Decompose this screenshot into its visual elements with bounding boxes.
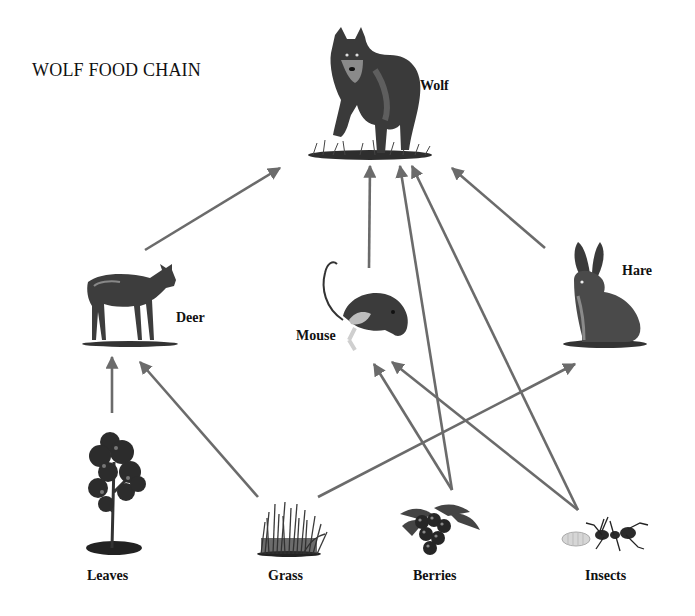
grass-icon xyxy=(255,500,330,558)
arrow-insects-to-wolf xyxy=(412,166,578,510)
label-berries: Berries xyxy=(413,568,457,584)
arrow-berries-to-mouse xyxy=(374,364,452,490)
tree-icon xyxy=(80,422,150,560)
arrow-grass-to-deer xyxy=(140,362,258,497)
wolf-icon xyxy=(305,25,435,160)
label-insects: Insects xyxy=(585,568,626,584)
label-mouse: Mouse xyxy=(296,328,336,344)
insects-icon xyxy=(560,515,650,555)
arrow-mouse-to-wolf xyxy=(369,166,370,268)
arrow-hare-to-wolf xyxy=(452,168,545,248)
arrow-deer-to-wolf xyxy=(145,168,280,250)
hare-icon xyxy=(560,240,655,350)
deer-icon xyxy=(80,260,190,350)
label-grass: Grass xyxy=(268,568,303,584)
label-hare: Hare xyxy=(622,263,652,279)
label-leaves: Leaves xyxy=(87,568,128,584)
label-wolf: Wolf xyxy=(420,78,449,94)
label-deer: Deer xyxy=(176,310,205,326)
berries-icon xyxy=(398,502,482,558)
